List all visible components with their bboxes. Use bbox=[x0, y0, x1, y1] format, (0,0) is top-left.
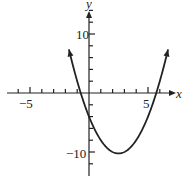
axes bbox=[7, 10, 176, 176]
x-tick-label-neg5: −5 bbox=[19, 97, 33, 110]
curve-arrows bbox=[68, 49, 170, 57]
y-tick-label-neg10: −10 bbox=[66, 147, 86, 160]
y-axis-label: y bbox=[86, 0, 92, 10]
x-tick-label-5: 5 bbox=[143, 97, 150, 110]
parabola-curve bbox=[69, 49, 168, 153]
plot-area bbox=[0, 0, 186, 179]
x-axis-label: x bbox=[176, 87, 182, 100]
y-tick-label-10: 10 bbox=[76, 28, 89, 41]
